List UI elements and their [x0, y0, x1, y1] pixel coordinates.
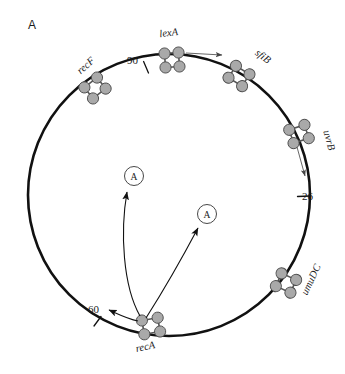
tick-60-label: 60 [88, 303, 100, 315]
chromosome-map-svg: A 90 26 60 recF lexA sfiB uvrB umuDC rec… [0, 0, 345, 374]
panel-letter: A [28, 18, 36, 32]
protein-cluster-umudc [268, 266, 303, 300]
gene-label-reca: recA [135, 339, 157, 354]
protein-cluster-uvrb [282, 118, 316, 150]
tick-90-label: 90 [127, 54, 139, 66]
node-a-2-letter: A [204, 210, 211, 220]
gene-label-lexa: lexA [159, 26, 179, 39]
tick-60: 60 [88, 303, 101, 326]
node-a-1-letter: A [131, 172, 138, 182]
gene-label-umudc: umuDC [299, 261, 323, 296]
chromosome-circle [28, 54, 310, 336]
tick-26: 26 [298, 190, 314, 202]
tick-26-label: 26 [302, 190, 314, 202]
gene-label-uvrb: uvrB [321, 129, 337, 152]
protein-cluster-lexa [159, 47, 186, 74]
figure-panel: A 90 26 60 recF lexA sfiB uvrB umuDC rec… [0, 0, 345, 374]
reca-to-node-1-arrow [123, 192, 140, 316]
protein-cluster-sfib [221, 58, 257, 94]
node-a-1: A [125, 167, 144, 186]
reca-to-node-2-arrow [146, 228, 198, 318]
node-a-2: A [198, 205, 217, 224]
reca-to-60-arrow [109, 310, 138, 321]
gene-label-sfib: sfiB [253, 47, 273, 66]
